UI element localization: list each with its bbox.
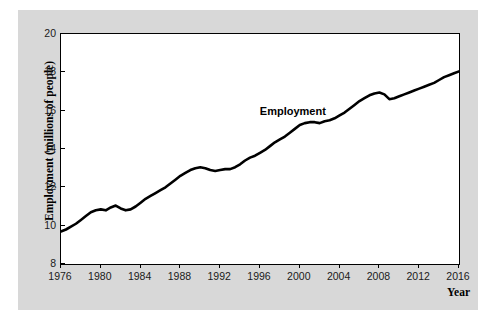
x-tick-label-1976: 1976 (48, 270, 71, 282)
employment-line-path (61, 71, 459, 231)
x-tick-label-2012: 2012 (407, 270, 430, 282)
chart-figure: Employment (millions of people) 81012141… (18, 10, 478, 310)
plot-area (60, 33, 460, 265)
x-tick-label-1992: 1992 (208, 270, 231, 282)
y-tick-label-8: 8 (50, 258, 56, 268)
x-tick-label-2016: 2016 (446, 270, 469, 282)
y-tick-label-10: 10 (44, 220, 56, 230)
y-tick-mark-10 (60, 225, 65, 226)
x-tick-label-2000: 2000 (287, 270, 310, 282)
y-tick-label-14: 14 (44, 143, 56, 153)
x-tick-label-1988: 1988 (168, 270, 191, 282)
x-axis-title: Year (447, 286, 470, 298)
y-tick-mark-18 (60, 71, 65, 72)
employment-line-series (61, 34, 459, 264)
y-axis-tick-labels: 8101214161820 (18, 10, 56, 310)
y-tick-mark-8 (60, 263, 65, 264)
y-tick-label-16: 16 (44, 105, 56, 115)
x-tick-label-2004: 2004 (327, 270, 350, 282)
x-tick-label-1984: 1984 (128, 270, 151, 282)
y-tick-mark-14 (60, 148, 65, 149)
y-tick-mark-16 (60, 110, 65, 111)
y-tick-label-20: 20 (44, 28, 56, 38)
y-tick-label-18: 18 (44, 66, 56, 76)
x-tick-label-1996: 1996 (247, 270, 270, 282)
y-tick-mark-20 (60, 33, 65, 34)
x-tick-label-2008: 2008 (367, 270, 390, 282)
x-tick-label-1980: 1980 (88, 270, 111, 282)
y-tick-mark-12 (60, 186, 65, 187)
y-tick-label-12: 12 (44, 181, 56, 191)
series-annotation-employment: Employment (260, 105, 326, 117)
